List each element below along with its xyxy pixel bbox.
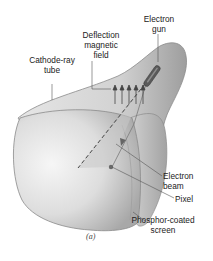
figure-caption: (a)	[86, 232, 95, 241]
pixel-label-text: Pixel	[175, 194, 193, 204]
crt-label-line2: tube	[26, 65, 78, 75]
pixel-label: Pixel	[175, 194, 193, 204]
deflection-field-label: Deflection magnetic field	[78, 30, 124, 60]
electron-beam-label: Electron beam	[163, 171, 193, 191]
cathode-ray-tube-label: Cathode-ray tube	[26, 55, 78, 75]
phosphor-screen-label: Phosphor-coated screen	[128, 215, 198, 235]
deflection-label-line3: field	[78, 50, 124, 60]
deflection-label-line2: magnetic	[78, 40, 124, 50]
deflection-label-line1: Deflection	[78, 30, 124, 40]
electron-gun-label-line1: Electron	[142, 14, 176, 24]
electron-gun-label-line2: gun	[142, 24, 176, 34]
crt-label-line1: Cathode-ray	[26, 55, 78, 65]
electron-beam-label-line1: Electron	[163, 171, 193, 181]
electron-beam-label-line2: beam	[163, 181, 193, 191]
phosphor-label-line2: screen	[128, 225, 198, 235]
crt-diagram: Electron gun Deflection magnetic field C…	[0, 0, 213, 261]
electron-gun-label: Electron gun	[142, 14, 176, 34]
phosphor-label-line1: Phosphor-coated	[128, 215, 198, 225]
